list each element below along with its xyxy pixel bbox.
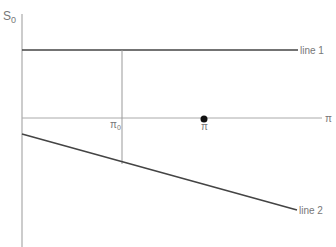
y-axis-label: S0: [3, 9, 16, 25]
diagram: S0 line 1 π π0 π line 2: [0, 0, 336, 247]
line-1-label: line 1: [300, 45, 324, 56]
diagram-svg: S0 line 1 π π0 π line 2: [0, 0, 336, 247]
line-2: [22, 134, 297, 210]
pi0-label: π0: [110, 119, 121, 131]
x-axis-label: π: [325, 113, 332, 124]
line-2-label: line 2: [299, 205, 323, 216]
pi-point-label: π: [201, 121, 208, 132]
